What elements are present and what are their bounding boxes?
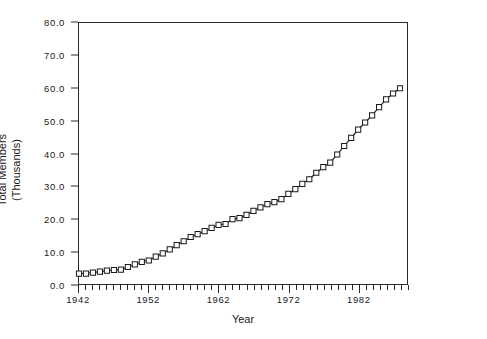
data-point-marker bbox=[370, 113, 375, 118]
series-polyline bbox=[79, 88, 400, 273]
data-point-marker bbox=[216, 222, 221, 227]
x-axis-tick-major bbox=[359, 285, 360, 293]
y-axis-tick-group: 80.070.060.050.040.030.020.010.00.0 bbox=[0, 0, 78, 339]
x-axis-tick-minor bbox=[401, 285, 402, 290]
data-point-marker bbox=[90, 270, 95, 275]
data-point-marker bbox=[293, 186, 298, 191]
x-axis-tick-minor bbox=[120, 285, 121, 290]
x-axis-tick-minor bbox=[211, 285, 212, 290]
x-axis-tick-minor bbox=[282, 285, 283, 290]
x-axis-tick-minor bbox=[169, 285, 170, 290]
data-point-marker bbox=[118, 267, 123, 272]
data-point-marker bbox=[202, 229, 207, 234]
data-point-marker bbox=[258, 205, 263, 210]
x-axis-tick-minor bbox=[155, 285, 156, 290]
y-axis-tick-label: 20.0 bbox=[44, 214, 65, 225]
data-point-marker bbox=[167, 247, 172, 252]
y-axis-tick-mark bbox=[71, 22, 78, 23]
data-point-marker bbox=[125, 264, 130, 269]
data-point-marker bbox=[356, 127, 361, 132]
x-axis-tick-minor bbox=[190, 285, 191, 290]
data-point-marker bbox=[265, 201, 270, 206]
data-point-marker bbox=[376, 105, 381, 110]
x-axis-tick-minor bbox=[204, 285, 205, 290]
x-axis-tick-minor bbox=[197, 285, 198, 290]
x-axis-tick-minor bbox=[408, 285, 409, 290]
x-axis-tick-minor bbox=[141, 285, 142, 290]
data-point-marker bbox=[363, 120, 368, 125]
x-axis-tick-minor bbox=[176, 285, 177, 290]
data-point-marker bbox=[251, 208, 256, 213]
data-point-marker bbox=[153, 254, 158, 259]
data-point-marker bbox=[104, 268, 109, 273]
data-point-marker bbox=[279, 197, 284, 202]
y-axis-tick-mark bbox=[71, 285, 78, 286]
data-point-marker bbox=[300, 181, 305, 186]
x-axis-tick-minor bbox=[92, 285, 93, 290]
plot-area bbox=[78, 22, 408, 285]
y-axis-tick-mark bbox=[71, 219, 78, 220]
x-axis-tick-label-group: 19421952196219721982 bbox=[78, 294, 408, 310]
x-axis-tick-label: 1972 bbox=[277, 294, 301, 305]
y-axis-tick-label: 70.0 bbox=[44, 49, 65, 60]
data-point-marker bbox=[349, 135, 354, 140]
x-axis-tick-major bbox=[78, 285, 79, 293]
data-point-marker bbox=[132, 262, 137, 267]
x-axis-tick-minor bbox=[387, 285, 388, 290]
data-point-marker bbox=[342, 143, 347, 148]
x-axis-tick-label: 1962 bbox=[207, 294, 231, 305]
y-axis-tick-mark bbox=[71, 54, 78, 55]
x-axis-tick-minor bbox=[239, 285, 240, 290]
x-axis-tick-minor bbox=[303, 285, 304, 290]
x-axis-tick-minor bbox=[268, 285, 269, 290]
x-axis-tick-minor bbox=[232, 285, 233, 290]
x-axis-tick-minor bbox=[127, 285, 128, 290]
data-point-marker bbox=[307, 177, 312, 182]
data-point-marker bbox=[188, 234, 193, 239]
x-axis-tick-label: 1982 bbox=[347, 294, 371, 305]
data-point-marker bbox=[397, 86, 402, 91]
y-axis-tick-label: 60.0 bbox=[44, 82, 65, 93]
data-point-marker bbox=[174, 243, 179, 248]
x-axis-tick-minor bbox=[345, 285, 346, 290]
x-axis-tick-minor bbox=[254, 285, 255, 290]
x-axis-tick-minor bbox=[352, 285, 353, 290]
data-point-marker bbox=[244, 212, 249, 217]
x-axis-tick-label: 1942 bbox=[66, 294, 90, 305]
data-point-marker bbox=[272, 200, 277, 205]
x-axis-tick-minor bbox=[162, 285, 163, 290]
y-axis-tick-label: 30.0 bbox=[44, 181, 65, 192]
data-series-line bbox=[79, 23, 407, 284]
data-point-marker bbox=[237, 216, 242, 221]
x-axis-tick-minor bbox=[85, 285, 86, 290]
y-axis-tick-label: 10.0 bbox=[44, 247, 65, 258]
data-point-marker bbox=[83, 271, 88, 276]
data-point-marker bbox=[383, 97, 388, 102]
data-point-marker bbox=[97, 269, 102, 274]
y-axis-tick-mark bbox=[71, 186, 78, 187]
x-axis-tick-minor bbox=[366, 285, 367, 290]
y-axis-tick-label: 0.0 bbox=[50, 280, 65, 291]
x-axis-tick-minor bbox=[331, 285, 332, 290]
x-axis-tick-minor bbox=[310, 285, 311, 290]
data-point-marker bbox=[76, 271, 81, 276]
x-axis-tick-label: 1952 bbox=[136, 294, 160, 305]
data-point-marker bbox=[321, 165, 326, 170]
x-axis-tick-major bbox=[148, 285, 149, 293]
data-point-marker bbox=[195, 232, 200, 237]
data-point-marker bbox=[160, 251, 165, 256]
y-axis-tick-mark bbox=[71, 120, 78, 121]
y-axis-tick-label: 50.0 bbox=[44, 115, 65, 126]
data-point-marker bbox=[314, 170, 319, 175]
data-point-marker bbox=[230, 216, 235, 221]
x-axis-tick-minor bbox=[380, 285, 381, 290]
x-axis-tick-minor bbox=[324, 285, 325, 290]
data-point-marker bbox=[181, 239, 186, 244]
data-point-marker bbox=[146, 258, 151, 263]
x-axis-title: Year bbox=[78, 313, 408, 325]
x-axis-tick-minor bbox=[225, 285, 226, 290]
x-axis-tick-minor bbox=[247, 285, 248, 290]
x-axis-tick-minor bbox=[296, 285, 297, 290]
data-point-marker bbox=[390, 91, 395, 96]
data-point-marker bbox=[111, 267, 116, 272]
